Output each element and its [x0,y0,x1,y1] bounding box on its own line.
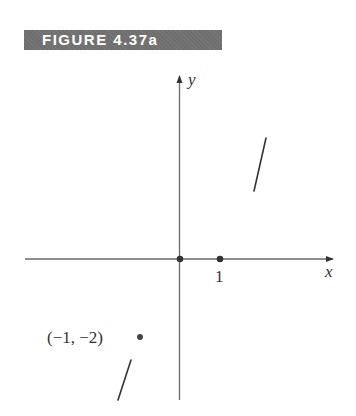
point-label-neg-one-neg-two: (−1, −2) [47,328,103,347]
lower-left-segment [118,360,131,400]
graph: y x 1 (−1, −2) [0,0,356,416]
y-axis-label: y [186,70,196,89]
x-axis-label: x [324,262,333,281]
point-neg-one-neg-two [137,334,143,340]
tick-label-1: 1 [215,267,224,286]
upper-right-segment [254,138,266,191]
origin-point [177,256,184,263]
point-x-one [217,256,224,263]
